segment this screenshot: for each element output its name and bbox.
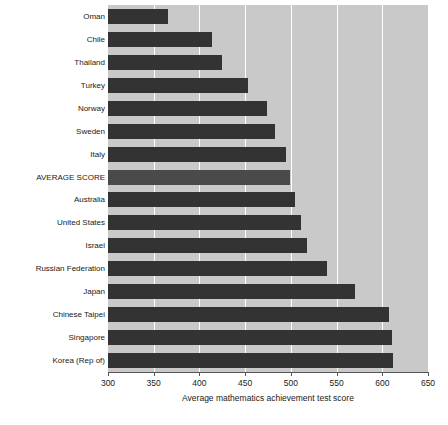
- x-tick-label-400: 400: [192, 378, 206, 388]
- bar-average-score: [108, 170, 290, 185]
- category-label-norway: Norway: [0, 104, 105, 113]
- category-label-united-states: United States: [0, 218, 105, 227]
- bar-singapore: [108, 330, 392, 345]
- bar-norway: [108, 101, 267, 116]
- x-axis-line: [108, 372, 428, 373]
- x-tick-label-600: 600: [375, 378, 389, 388]
- x-tick-mark-350: [154, 372, 155, 376]
- bars-layer: [108, 5, 428, 372]
- category-label-thailand: Thailand: [0, 58, 105, 67]
- bar-row: [108, 215, 301, 230]
- bar-row: [108, 124, 275, 139]
- bar-row: [108, 147, 286, 162]
- bar-row: [108, 55, 222, 70]
- x-tick-label-500: 500: [284, 378, 298, 388]
- bar-row: [108, 192, 295, 207]
- bar-oman: [108, 9, 168, 24]
- x-axis-title: Average mathematics achievement test sco…: [108, 393, 428, 404]
- bar-australia: [108, 192, 295, 207]
- category-label-oman: Oman: [0, 12, 105, 21]
- bar-chart: OmanChileThailandTurkeyNorwaySwedenItaly…: [0, 0, 448, 425]
- bar-russian-federation: [108, 261, 327, 276]
- x-tick-label-300: 300: [101, 378, 115, 388]
- x-tick-label-550: 550: [329, 378, 343, 388]
- bar-row: [108, 78, 248, 93]
- bar-row: [108, 9, 168, 24]
- bar-row: [108, 353, 393, 368]
- bar-japan: [108, 284, 355, 299]
- x-tick-mark-500: [291, 372, 292, 376]
- category-label-russian-federation: Russian Federation: [0, 264, 105, 273]
- bar-row: [108, 284, 355, 299]
- bar-row: [108, 32, 212, 47]
- category-label-chinese-taipei: Chinese Taipei: [0, 310, 105, 319]
- x-tick-mark-600: [382, 372, 383, 376]
- category-label-sweden: Sweden: [0, 127, 105, 136]
- x-tick-label-450: 450: [238, 378, 252, 388]
- category-axis-labels: OmanChileThailandTurkeyNorwaySwedenItaly…: [0, 5, 105, 372]
- x-tick-mark-550: [337, 372, 338, 376]
- category-label-japan: Japan: [0, 287, 105, 296]
- x-tick-mark-450: [245, 372, 246, 376]
- plot-area: [108, 5, 428, 372]
- category-label-australia: Australia: [0, 195, 105, 204]
- bar-row: [108, 238, 307, 253]
- bar-italy: [108, 147, 286, 162]
- category-label-italy: Italy: [0, 150, 105, 159]
- x-tick-mark-300: [108, 372, 109, 376]
- bar-chinese-taipei: [108, 307, 389, 322]
- x-tick-label-350: 350: [147, 378, 161, 388]
- bar-row: [108, 170, 290, 185]
- category-label-chile: Chile: [0, 35, 105, 44]
- category-label-turkey: Turkey: [0, 81, 105, 90]
- bar-turkey: [108, 78, 248, 93]
- x-tick-mark-650: [428, 372, 429, 376]
- category-label-korea-rep-of: Korea (Rep of): [0, 356, 105, 365]
- bar-row: [108, 307, 389, 322]
- bar-row: [108, 330, 392, 345]
- category-label-israel: Israel: [0, 241, 105, 250]
- bar-chile: [108, 32, 212, 47]
- category-label-average-score: AVERAGE SCORE: [0, 173, 105, 182]
- bar-israel: [108, 238, 307, 253]
- x-tick-label-650: 650: [421, 378, 435, 388]
- bar-korea-rep-of: [108, 353, 393, 368]
- bar-row: [108, 261, 327, 276]
- bar-thailand: [108, 55, 222, 70]
- category-label-singapore: Singapore: [0, 333, 105, 342]
- bar-sweden: [108, 124, 275, 139]
- bar-united-states: [108, 215, 301, 230]
- x-tick-mark-400: [199, 372, 200, 376]
- bar-row: [108, 101, 267, 116]
